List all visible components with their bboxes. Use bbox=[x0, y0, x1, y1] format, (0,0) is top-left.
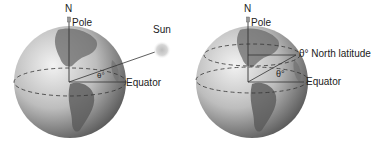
globe-sun-illustration bbox=[0, 0, 190, 149]
globe-latitude-illustration bbox=[190, 0, 381, 149]
north-label: N bbox=[244, 4, 251, 14]
equator-label: Equator bbox=[126, 78, 161, 88]
sun-icon bbox=[153, 41, 171, 59]
north-label: N bbox=[65, 4, 72, 14]
right-diagram: N Pole θ° North latitude θ° Equator bbox=[190, 0, 381, 149]
angle-label: θ° bbox=[276, 70, 285, 79]
pole-label: Pole bbox=[251, 18, 271, 28]
latitude-label: θ° North latitude bbox=[299, 49, 371, 59]
sun-label: Sun bbox=[153, 25, 171, 35]
equator-label: Equator bbox=[306, 77, 341, 87]
left-diagram: N Pole Sun θ° Equator bbox=[0, 0, 190, 149]
angle-label: θ° bbox=[97, 72, 105, 80]
pole-label: Pole bbox=[72, 18, 92, 28]
